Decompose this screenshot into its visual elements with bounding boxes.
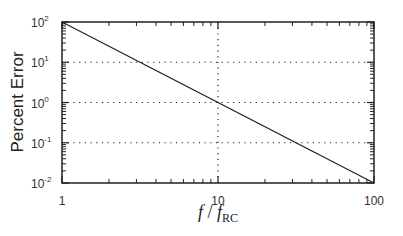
x-axis-label: f / fRC [198, 202, 238, 226]
x-tick-label: 100 [364, 194, 384, 208]
y-tick-label: 102 [31, 14, 49, 30]
x-axis-label-sep: / [203, 202, 217, 222]
percent-error-chart: 11010010-210-1100101102 [0, 0, 403, 236]
y-tick-label: 101 [31, 54, 49, 70]
y-tick-label: 10-1 [31, 135, 52, 151]
y-tick-label: 100 [31, 95, 49, 111]
y-axis-label-text: Percent Error [8, 51, 28, 152]
x-axis-label-sub: RC [222, 211, 238, 225]
y-tick-label: 10-2 [31, 175, 52, 191]
x-tick-label: 1 [59, 194, 66, 208]
